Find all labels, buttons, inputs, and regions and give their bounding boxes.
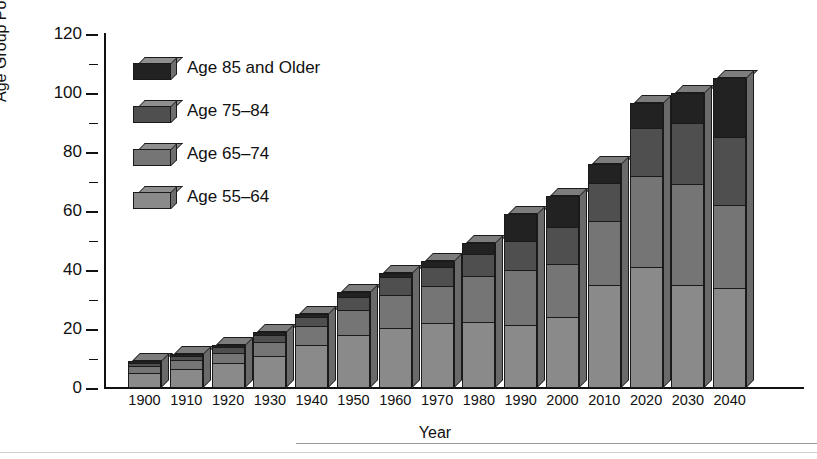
bar-segment-1980-age-55-64 — [462, 322, 495, 388]
y-tick-10 — [89, 359, 98, 360]
y-tick-label-0: 0 — [73, 378, 82, 398]
bar-side-face-1970 — [454, 253, 462, 388]
bar-side-face-1990 — [537, 206, 545, 388]
page-rule — [296, 443, 817, 444]
bar-segment-2030-age-55-64 — [671, 285, 704, 388]
y-tick-50 — [89, 241, 98, 242]
y-tick-0 — [86, 388, 98, 390]
bar-segment-1920-age-85-and-older — [212, 345, 245, 346]
bar-segment-2040-age-55-64 — [713, 288, 746, 388]
bar-side-face-1980 — [495, 235, 503, 388]
y-tick-80 — [86, 152, 98, 154]
bar-2040 — [713, 78, 746, 388]
x-tick-label-1950: 1950 — [332, 392, 375, 408]
legend-swatch-front-face — [133, 63, 171, 80]
x-tick-label-1960: 1960 — [374, 392, 417, 408]
bar-2020 — [630, 103, 663, 388]
y-tick-label-60: 60 — [63, 201, 82, 221]
legend-label: Age 85 and Older — [187, 55, 320, 81]
legend-label: Age 75–84 — [187, 98, 269, 124]
y-tick-100 — [86, 93, 98, 95]
bar-segment-1930-age-65-74 — [253, 342, 286, 355]
legend-swatch-side-face — [171, 186, 177, 209]
bar-1900 — [128, 361, 161, 388]
bar-segment-1900-age-65-74 — [128, 366, 161, 373]
bar-segment-1950-age-55-64 — [337, 335, 370, 388]
bar-segment-2040-age-85-and-older — [713, 78, 746, 137]
bar-segment-1930-age-75-84 — [253, 335, 286, 342]
page-rule-secondary — [0, 452, 817, 453]
bar-segment-2010-age-75-84 — [588, 183, 621, 221]
bar-segment-1970-age-85-and-older — [421, 261, 454, 267]
bar-1970 — [421, 261, 454, 388]
bar-segment-2000-age-65-74 — [546, 264, 579, 317]
bar-segment-1920-age-65-74 — [212, 353, 245, 363]
bar-1930 — [253, 332, 286, 388]
x-tick-label-1920: 1920 — [207, 392, 250, 408]
y-tick-label-40: 40 — [63, 260, 82, 280]
x-tick-label-2030: 2030 — [666, 392, 709, 408]
bar-segment-1930-age-85-and-older — [253, 332, 286, 335]
y-tick-40 — [86, 270, 98, 272]
y-tick-60 — [86, 211, 98, 213]
x-tick-label-1940: 1940 — [290, 392, 333, 408]
y-tick-30 — [89, 300, 98, 301]
bar-segment-1950-age-85-and-older — [337, 292, 370, 296]
bar-segment-2020-age-65-74 — [630, 176, 663, 267]
bar-segment-2040-age-75-84 — [713, 137, 746, 205]
bar-side-face-1950 — [370, 284, 378, 388]
bar-segment-1960-age-85-and-older — [379, 273, 412, 277]
bar-segment-1920-age-75-84 — [212, 347, 245, 353]
bar-segment-2040-age-65-74 — [713, 205, 746, 288]
x-tick-label-2000: 2000 — [541, 392, 584, 408]
bar-segment-1960-age-75-84 — [379, 277, 412, 295]
y-tick-label-100: 100 — [54, 83, 82, 103]
y-tick-70 — [89, 182, 98, 183]
bar-segment-1930-age-55-64 — [253, 356, 286, 388]
bar-side-face-1900 — [161, 353, 169, 388]
bar-side-face-1940 — [328, 306, 336, 388]
bar-segment-1980-age-85-and-older — [462, 243, 495, 253]
bar-segment-1970-age-75-84 — [421, 267, 454, 286]
bar-segment-2020-age-85-and-older — [630, 103, 663, 128]
bar-segment-1990-age-65-74 — [504, 270, 537, 325]
bar-segment-2030-age-75-84 — [671, 123, 704, 185]
legend-swatch-age-65-74 — [133, 143, 179, 166]
bar-1940 — [295, 314, 328, 388]
legend-swatch-side-face — [171, 100, 177, 123]
bar-1910 — [170, 354, 203, 388]
legend-swatch-front-face — [133, 192, 171, 209]
bar-side-face-1920 — [245, 337, 253, 388]
bar-side-face-2030 — [704, 85, 712, 388]
bar-segment-2000-age-85-and-older — [546, 196, 579, 227]
legend-label: Age 65–74 — [187, 141, 269, 167]
bar-side-face-2020 — [663, 95, 671, 388]
legend-swatch-age-75-84 — [133, 100, 179, 123]
bar-segment-1900-age-55-64 — [128, 373, 161, 388]
x-tick-label-1930: 1930 — [248, 392, 291, 408]
bar-segment-1970-age-65-74 — [421, 286, 454, 323]
bar-segment-1920-age-55-64 — [212, 363, 245, 388]
bar-segment-1980-age-65-74 — [462, 276, 495, 322]
y-tick-label-80: 80 — [63, 142, 82, 162]
bar-2030 — [671, 93, 704, 388]
bar-side-face-1960 — [412, 265, 420, 388]
bar-2010 — [588, 164, 621, 388]
bar-1990 — [504, 214, 537, 388]
legend-swatch-side-face — [171, 57, 177, 80]
bar-segment-1960-age-65-74 — [379, 295, 412, 327]
bar-segment-2020-age-55-64 — [630, 267, 663, 388]
bar-side-face-2010 — [621, 156, 629, 388]
bar-segment-1940-age-55-64 — [295, 345, 328, 388]
y-tick-label-20: 20 — [63, 319, 82, 339]
bar-1920 — [212, 345, 245, 388]
bar-segment-1990-age-55-64 — [504, 325, 537, 388]
legend-label: Age 55–64 — [187, 184, 269, 210]
bar-segment-2010-age-85-and-older — [588, 164, 621, 183]
bar-segment-1940-age-65-74 — [295, 326, 328, 345]
bar-segment-1970-age-55-64 — [421, 323, 454, 388]
y-tick-110 — [89, 64, 98, 65]
bar-segment-1910-age-75-84 — [170, 356, 203, 360]
bar-segment-1950-age-65-74 — [337, 310, 370, 335]
x-tick-label-1910: 1910 — [165, 392, 208, 408]
